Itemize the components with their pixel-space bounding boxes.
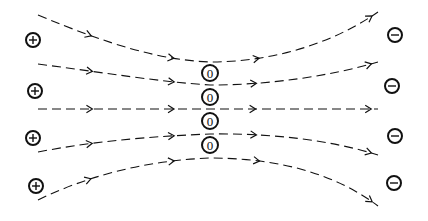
arrowhead-icon bbox=[365, 195, 372, 201]
field-line bbox=[38, 12, 378, 62]
neutral-point-label: 0 bbox=[207, 66, 214, 81]
neutral-point-label: 0 bbox=[207, 138, 214, 153]
arrowhead-icon bbox=[168, 158, 174, 165]
neutral-point-icon: 0 bbox=[202, 65, 218, 81]
positive-charge-icon bbox=[26, 33, 40, 47]
neutral-point-label: 0 bbox=[207, 114, 214, 129]
positive-charge-icon bbox=[28, 84, 42, 98]
negative-charge-icon bbox=[385, 79, 399, 93]
neutral-point-icon: 0 bbox=[202, 113, 218, 129]
neutral-point-icon: 0 bbox=[202, 89, 218, 105]
neutral-point-label: 0 bbox=[207, 90, 214, 105]
positive-charges bbox=[26, 33, 43, 193]
arrowhead-icon bbox=[167, 54, 173, 61]
neutral-point-icon: 0 bbox=[202, 137, 218, 153]
field-line bbox=[38, 158, 378, 206]
negative-charge-icon bbox=[388, 129, 402, 143]
positive-charge-icon bbox=[26, 131, 40, 145]
negative-charge-icon bbox=[387, 176, 401, 190]
positive-charge-icon bbox=[29, 179, 43, 193]
negative-charges bbox=[385, 28, 402, 190]
negative-charge-icon bbox=[388, 28, 402, 42]
field-line-diagram: 0000 bbox=[0, 0, 428, 221]
field-lines bbox=[38, 12, 378, 206]
